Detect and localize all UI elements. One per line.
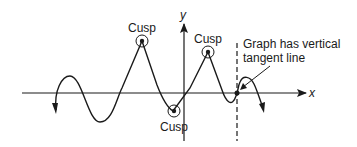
annotation-line-2: tangent line — [243, 51, 305, 65]
annotation-line-1: Graph has vertical — [243, 37, 340, 51]
graph-diagram: x y Cusp Cusp Cusp Graph has vertical ta… — [0, 0, 357, 147]
cusp-marker-right — [202, 46, 214, 58]
cusp-label-bottom: Cusp — [160, 120, 188, 134]
function-curve — [56, 41, 263, 122]
cusp-label-right: Cusp — [194, 32, 222, 46]
vertical-tangent-point — [235, 91, 240, 96]
curve-right-arrow-icon — [259, 102, 265, 113]
x-axis-label: x — [308, 86, 316, 100]
cusp-marker-bottom — [168, 105, 180, 117]
annotation-pointer-arrow-icon — [240, 83, 247, 90]
y-axis-label: y — [179, 8, 187, 22]
cusp-marker-left — [136, 35, 148, 47]
annotation-pointer — [243, 66, 270, 87]
curve-left-arrow-icon — [52, 103, 58, 114]
cusp-label-left: Cusp — [128, 21, 156, 35]
